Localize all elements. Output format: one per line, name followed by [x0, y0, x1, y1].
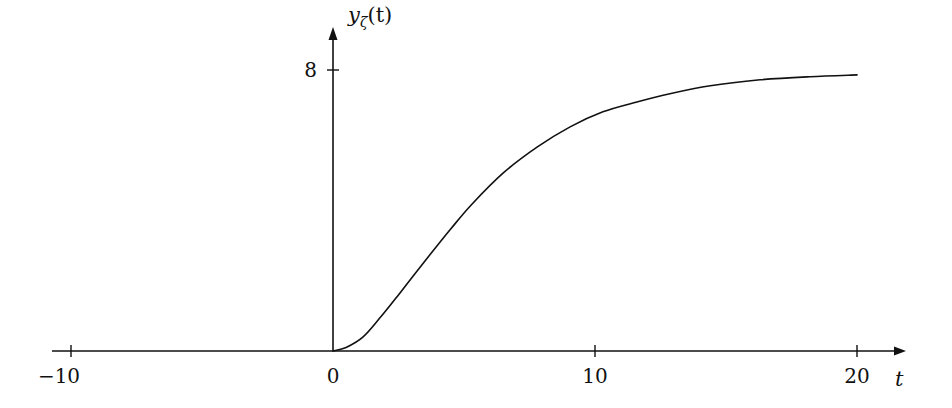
y-axis-arrow-icon — [329, 27, 338, 40]
x-tick-label: −10 — [38, 364, 80, 388]
response-curve — [333, 75, 857, 351]
x-tick-label: 0 — [327, 364, 340, 388]
y-axis-label-paren: (t) — [367, 3, 392, 27]
x-axis-arrow-icon — [894, 347, 906, 356]
chart: −1001020 8 t yζ(t) — [0, 0, 952, 408]
y-axis-label: yζ(t) — [347, 3, 392, 30]
x-tick-label: 20 — [844, 364, 869, 388]
x-axis-label: t — [895, 367, 904, 391]
x-tick-label: 10 — [582, 364, 607, 388]
y-tick-label: 8 — [304, 58, 317, 82]
